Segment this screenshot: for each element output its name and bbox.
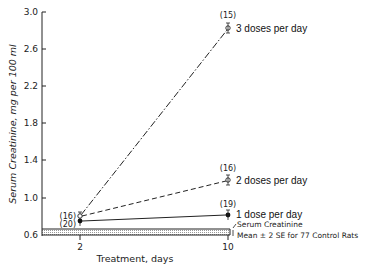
x-axis: 2 10 Treatment, days xyxy=(77,235,234,264)
n-label-1dose-day10: (19) xyxy=(220,200,236,209)
data-point-day2-filled xyxy=(78,219,83,224)
data-point-day2-open xyxy=(78,214,82,218)
y-tick-1.8: 1.8 xyxy=(24,118,39,128)
series-label-3-doses: 3 doses per day xyxy=(236,23,307,34)
y-tick-2.6: 2.6 xyxy=(24,44,39,54)
series-label-1-dose: 1 dose per day xyxy=(236,209,302,220)
control-band: Serum Creatinine Mean ± 2 SE for 77 Cont… xyxy=(42,220,358,240)
x-axis-title: Treatment, days xyxy=(96,253,174,264)
y-tick-1.0: 1.0 xyxy=(24,193,39,203)
serum-creatinine-chart: Serum Creatinine Mean ± 2 SE for 77 Cont… xyxy=(0,0,368,268)
control-band-label-line2: Mean ± 2 SE for 77 Control Rats xyxy=(237,231,358,240)
n-label-day2-bottom: (20) xyxy=(60,220,76,229)
y-tick-3.0: 3.0 xyxy=(24,7,39,17)
day2-points: (16) (20) xyxy=(60,212,83,229)
y-axis-title: Serum Creatinine, mg per 100 ml xyxy=(7,44,18,204)
y-tick-0.6: 0.6 xyxy=(24,230,39,240)
x-tick-10: 10 xyxy=(222,242,234,252)
y-tick-1.4: 1.4 xyxy=(24,155,39,165)
y-axis: 0.6 1.0 1.4 1.8 2.2 2.6 3.0 Serum Creati… xyxy=(7,7,46,240)
x-tick-2: 2 xyxy=(77,242,83,252)
n-label-3doses-day10: (15) xyxy=(220,11,236,20)
series-label-2-doses: 2 doses per day xyxy=(236,175,307,186)
y-tick-2.2: 2.2 xyxy=(24,81,38,91)
series-1-dose: (19) 1 dose per day xyxy=(82,200,302,221)
control-band-label-line1: Serum Creatinine xyxy=(237,220,303,229)
n-label-2doses-day10: (16) xyxy=(220,164,236,173)
